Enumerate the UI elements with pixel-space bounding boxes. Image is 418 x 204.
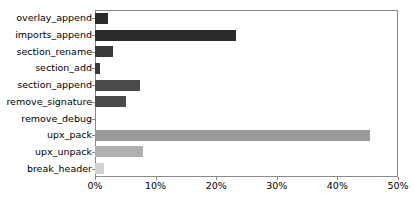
bar-break_header (95, 163, 104, 174)
bar-row (95, 163, 398, 174)
y-tick-label-remove_debug: remove_debug (21, 113, 92, 124)
x-tick-mark (277, 177, 278, 180)
x-tick-mark (337, 177, 338, 180)
x-tick-label-40%: 40% (327, 180, 348, 191)
bar-row (95, 13, 398, 24)
bar-section_rename (95, 46, 113, 57)
y-tick-label-upx_unpack: upx_unpack (35, 146, 92, 157)
bar-section_add (95, 63, 100, 74)
bar-remove_signature (95, 96, 126, 107)
bar-row (95, 96, 398, 107)
bar-overlay_append (95, 13, 108, 24)
x-tick-label-10%: 10% (145, 180, 166, 191)
bar-row (95, 146, 398, 157)
bar-row (95, 63, 398, 74)
bar-chart-figure: overlay_appendimports_appendsection_rena… (0, 0, 418, 204)
y-tick-mark (92, 152, 95, 153)
x-tick-label-0%: 0% (87, 180, 102, 191)
bar-upx_unpack (95, 146, 143, 157)
x-tick-mark (95, 177, 96, 180)
x-tick-label-50%: 50% (387, 180, 408, 191)
bar-row (95, 30, 398, 41)
y-tick-label-section_append: section_append (17, 79, 92, 90)
y-tick-label-break_header: break_header (27, 163, 92, 174)
x-tick-label-30%: 30% (266, 180, 287, 191)
y-tick-label-upx_pack: upx_pack (47, 129, 92, 140)
x-tick-mark (216, 177, 217, 180)
y-tick-mark (92, 68, 95, 69)
y-tick-label-imports_append: imports_append (15, 29, 92, 40)
y-tick-label-overlay_append: overlay_append (16, 12, 92, 23)
bar-imports_append (95, 30, 236, 41)
y-tick-label-section_rename: section_rename (17, 46, 92, 57)
x-tick-mark (156, 177, 157, 180)
bar-row (95, 46, 398, 57)
y-tick-mark (92, 18, 95, 19)
bar-upx_pack (95, 130, 370, 141)
y-tick-mark (92, 102, 95, 103)
bar-section_append (95, 80, 140, 91)
y-tick-mark (92, 119, 95, 120)
y-tick-mark (92, 135, 95, 136)
y-tick-mark (92, 85, 95, 86)
bar-row (95, 113, 398, 124)
y-tick-label-remove_signature: remove_signature (6, 96, 92, 107)
y-tick-mark (92, 169, 95, 170)
y-tick-label-section_add: section_add (35, 62, 92, 73)
bar-row (95, 130, 398, 141)
y-tick-mark (92, 52, 95, 53)
bar-row (95, 80, 398, 91)
y-tick-mark (92, 35, 95, 36)
x-tick-label-20%: 20% (206, 180, 227, 191)
x-tick-mark (398, 177, 399, 180)
